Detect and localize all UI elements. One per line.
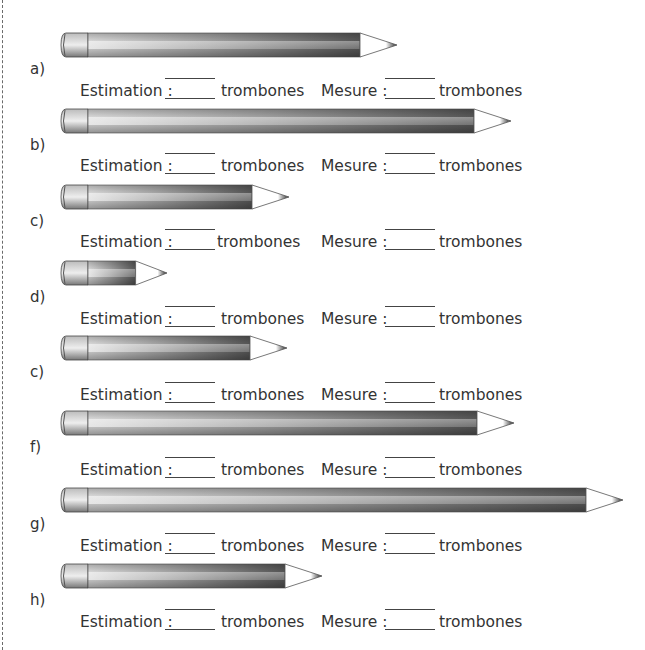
pencil-c bbox=[60, 184, 292, 209]
measure-top-line bbox=[385, 78, 435, 79]
item-label: f) bbox=[30, 438, 41, 456]
estimation-label: Estimation : bbox=[80, 386, 173, 404]
measure-top-line bbox=[385, 609, 435, 610]
estimation-label: Estimation : bbox=[80, 157, 173, 175]
pencil-c-second bbox=[60, 335, 290, 360]
estimation-top-line bbox=[165, 153, 215, 154]
item-label: d) bbox=[30, 288, 45, 306]
estimation-label: Estimation : bbox=[80, 82, 173, 100]
unit-label: trombones bbox=[439, 82, 522, 100]
measure-label: Mesure : bbox=[321, 613, 388, 631]
pencil-graphic bbox=[60, 410, 517, 436]
unit-label: trombones bbox=[439, 386, 522, 404]
measure-field[interactable] bbox=[385, 629, 435, 630]
exercise-f: f) Estimation : trombones Mesure : tromb… bbox=[0, 406, 645, 482]
measure-top-line bbox=[385, 382, 435, 383]
unit-label: trombones bbox=[221, 386, 304, 404]
measure-field[interactable] bbox=[385, 326, 435, 327]
estimation-label: Estimation : bbox=[80, 233, 173, 251]
measure-top-line bbox=[385, 153, 435, 154]
pencil-graphic bbox=[60, 32, 400, 58]
estimation-label: Estimation : bbox=[80, 461, 173, 479]
estimation-field[interactable] bbox=[165, 326, 215, 327]
pencil-graphic bbox=[60, 108, 514, 134]
exercise-g: g) Estimation : trombones Mesure : tromb… bbox=[0, 483, 645, 559]
measure-field[interactable] bbox=[385, 477, 435, 478]
exercise-b: b) Estimation : trombones Mesure : tromb… bbox=[0, 104, 645, 180]
item-label: c) bbox=[30, 212, 44, 230]
pencil-g bbox=[60, 487, 626, 512]
estimation-top-line bbox=[165, 533, 215, 534]
pencil-graphic bbox=[60, 260, 170, 286]
item-label: a) bbox=[30, 60, 45, 78]
measure-field[interactable] bbox=[385, 249, 435, 250]
measure-field[interactable] bbox=[385, 553, 435, 554]
item-label: g) bbox=[30, 515, 45, 533]
measure-top-line bbox=[385, 229, 435, 230]
estimation-field[interactable] bbox=[165, 477, 215, 478]
pencil-h bbox=[60, 563, 325, 588]
unit-label: trombones bbox=[221, 461, 304, 479]
measure-top-line bbox=[385, 533, 435, 534]
estimation-label: Estimation : bbox=[80, 310, 173, 328]
measure-label: Mesure : bbox=[321, 233, 388, 251]
estimation-field[interactable] bbox=[165, 249, 215, 250]
unit-label: trombones bbox=[221, 537, 304, 555]
pencil-f bbox=[60, 410, 517, 435]
pencil-graphic bbox=[60, 487, 626, 513]
estimation-field[interactable] bbox=[165, 173, 215, 174]
unit-label: trombones bbox=[221, 310, 304, 328]
measure-top-line bbox=[385, 457, 435, 458]
estimation-label: Estimation : bbox=[80, 537, 173, 555]
unit-label: trombones bbox=[221, 82, 304, 100]
measure-label: Mesure : bbox=[321, 461, 388, 479]
estimation-field[interactable] bbox=[165, 629, 215, 630]
exercise-c: c) Estimation : trombones Mesure : tromb… bbox=[0, 180, 645, 256]
unit-label: trombones bbox=[221, 613, 304, 631]
measure-label: Mesure : bbox=[321, 537, 388, 555]
unit-label: trombones bbox=[439, 613, 522, 631]
item-label: h) bbox=[30, 591, 45, 609]
unit-label: trombones bbox=[439, 537, 522, 555]
estimation-top-line bbox=[165, 609, 215, 610]
exercise-h: h) Estimation : trombones Mesure : tromb… bbox=[0, 559, 645, 635]
estimation-top-line bbox=[165, 78, 215, 79]
item-label: c) bbox=[30, 363, 44, 381]
estimation-field[interactable] bbox=[165, 553, 215, 554]
unit-label: trombones bbox=[439, 461, 522, 479]
measure-field[interactable] bbox=[385, 402, 435, 403]
measure-label: Mesure : bbox=[321, 82, 388, 100]
exercise-c-second: c) Estimation : trombones Mesure : tromb… bbox=[0, 331, 645, 407]
measure-label: Mesure : bbox=[321, 386, 388, 404]
estimation-top-line bbox=[165, 382, 215, 383]
measure-label: Mesure : bbox=[321, 157, 388, 175]
measure-field[interactable] bbox=[385, 98, 435, 99]
pencil-d bbox=[60, 260, 170, 285]
estimation-top-line bbox=[165, 229, 215, 230]
measure-field[interactable] bbox=[385, 173, 435, 174]
pencil-a bbox=[60, 32, 400, 57]
pencil-graphic bbox=[60, 563, 325, 589]
pencil-b bbox=[60, 108, 514, 133]
unit-label: trombones bbox=[217, 233, 300, 251]
item-label: b) bbox=[30, 136, 45, 154]
unit-label: trombones bbox=[439, 233, 522, 251]
estimation-field[interactable] bbox=[165, 402, 215, 403]
pencil-graphic bbox=[60, 335, 290, 361]
exercise-d: d) Estimation : trombones Mesure : tromb… bbox=[0, 256, 645, 332]
unit-label: trombones bbox=[221, 157, 304, 175]
exercise-a: a) Estimation : trombones Mesure : tromb… bbox=[0, 28, 645, 104]
unit-label: trombones bbox=[439, 310, 522, 328]
estimation-field[interactable] bbox=[165, 98, 215, 99]
estimation-top-line bbox=[165, 457, 215, 458]
pencil-graphic bbox=[60, 184, 292, 210]
estimation-label: Estimation : bbox=[80, 613, 173, 631]
measure-label: Mesure : bbox=[321, 310, 388, 328]
unit-label: trombones bbox=[439, 157, 522, 175]
measure-top-line bbox=[385, 306, 435, 307]
estimation-top-line bbox=[165, 306, 215, 307]
